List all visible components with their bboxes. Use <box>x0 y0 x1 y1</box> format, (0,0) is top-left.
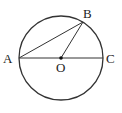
label-b: B <box>83 6 92 21</box>
label-o: O <box>56 60 65 75</box>
chord-ab <box>19 22 83 58</box>
label-a: A <box>3 51 13 66</box>
circle-diagram: A B C O <box>0 0 122 113</box>
radius-ob <box>61 22 83 58</box>
label-c: C <box>106 51 115 66</box>
